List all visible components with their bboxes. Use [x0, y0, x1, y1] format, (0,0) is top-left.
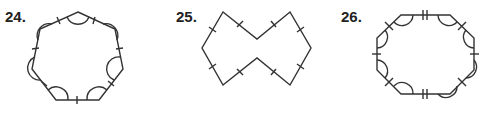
figures: [0, 0, 493, 115]
bowtie-figure: [202, 12, 311, 85]
heptagon-figure: [28, 12, 123, 104]
octagon-figure: [372, 10, 479, 99]
